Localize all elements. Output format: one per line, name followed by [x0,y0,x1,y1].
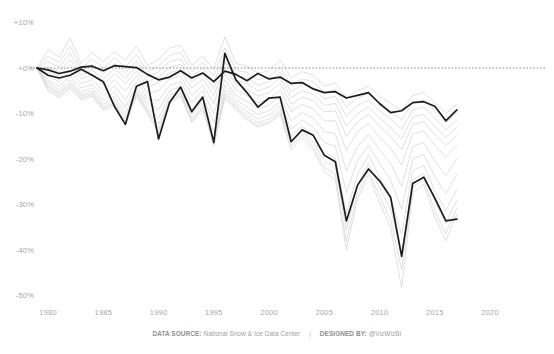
context-series-group [37,37,457,288]
y-axis-tick-label: -30% [0,200,34,209]
footer-separator: | [302,329,318,338]
designer-label: DESIGNED BY: [320,330,367,337]
y-axis-tick-label: -10% [0,109,34,118]
y-axis-tick-label: +0% [0,64,34,73]
x-axis-tick-label: 1985 [83,308,123,317]
sea-ice-anomaly-chart: +10%+0%-10%-20%-30%-40%-50% 198019851990… [0,0,554,354]
data-source-label: DATA SOURCE: [153,330,202,337]
series-line [37,68,457,270]
x-axis-tick-label: 1990 [139,308,179,317]
y-axis-tick-label: +10% [0,18,34,27]
series-line [37,60,457,139]
x-axis-tick-label: 1995 [194,308,234,317]
x-axis-tick-label: 2005 [304,308,344,317]
x-axis-tick-label: 2015 [415,308,455,317]
x-axis-tick-label: 2020 [470,308,510,317]
data-source-value: National Snow & Ice Data Center [203,330,300,337]
chart-plot-area [0,0,554,354]
series-line [37,68,457,288]
x-axis-tick-label: 2000 [249,308,289,317]
designer-handle: @VizWizBI [369,330,402,337]
y-axis-tick-label: -50% [0,291,34,300]
series-line [37,68,457,165]
x-axis-tick-label: 2010 [360,308,400,317]
x-axis-tick-label: 1980 [28,308,68,317]
series-line [37,68,457,255]
chart-footer: DATA SOURCE: National Snow & Ice Data Ce… [0,329,554,338]
y-axis-tick-label: -20% [0,155,34,164]
series-line [37,68,457,186]
y-axis-tick-label: -40% [0,246,34,255]
